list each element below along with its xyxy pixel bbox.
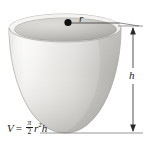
formula-numerator: π — [27, 119, 33, 127]
formula-lhs: V — [7, 122, 14, 134]
paraboloid-figure: r h V = π 2 r 2 h — [0, 0, 146, 148]
arrow-down-icon — [130, 125, 136, 133]
formula-radius-exponent: 2 — [38, 121, 42, 129]
height-label: h — [129, 70, 135, 81]
formula-equals: = — [16, 122, 22, 134]
formula-denominator: 2 — [27, 128, 33, 136]
formula-height-variable: h — [42, 122, 48, 134]
volume-formula: V = π 2 r 2 h — [7, 119, 47, 136]
radius-label: r — [79, 13, 83, 24]
arrow-up-icon — [130, 27, 136, 35]
center-point-dot — [64, 19, 71, 26]
top-rim — [9, 14, 121, 42]
formula-fraction: π 2 — [26, 119, 33, 136]
